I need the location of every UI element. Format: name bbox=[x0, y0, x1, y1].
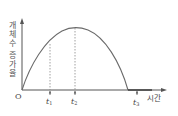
t1-label-sub: 1 bbox=[49, 100, 52, 106]
t1-label: t1 bbox=[46, 97, 52, 108]
t2-tick-arrow-icon bbox=[74, 91, 76, 95]
t2-label-sub: 2 bbox=[74, 100, 77, 106]
t1-tick-arrow-icon bbox=[49, 91, 51, 95]
t2-label: t2 bbox=[71, 97, 77, 108]
origin-label: O bbox=[15, 92, 22, 101]
y-label-char: 증 bbox=[6, 51, 18, 60]
y-label-char: 수 bbox=[6, 39, 18, 48]
t3-label-sub: 3 bbox=[136, 101, 139, 107]
y-label-char: 개 bbox=[6, 21, 18, 30]
y-label-char: 가 bbox=[6, 60, 18, 69]
y-label-char: 체 bbox=[6, 30, 18, 39]
y-axis-label: 개 체 수 증 가 율 bbox=[6, 21, 18, 78]
t3-tick-arrow-icon bbox=[136, 91, 138, 95]
y-axis-arrow-icon bbox=[20, 18, 24, 24]
y-label-char: 율 bbox=[6, 69, 18, 78]
t3-label: t3 bbox=[133, 98, 139, 109]
x-axis-arrow-icon bbox=[161, 88, 167, 92]
x-axis-label: 시간 bbox=[147, 94, 161, 103]
